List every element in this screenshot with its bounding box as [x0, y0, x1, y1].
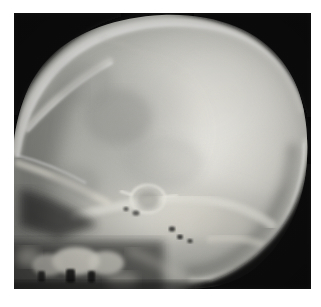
screenshot-root: Grainy black and white lateral skull X-r…: [0, 0, 321, 307]
radiograph-frame: [14, 13, 311, 289]
skull-xray-image: [14, 13, 311, 289]
